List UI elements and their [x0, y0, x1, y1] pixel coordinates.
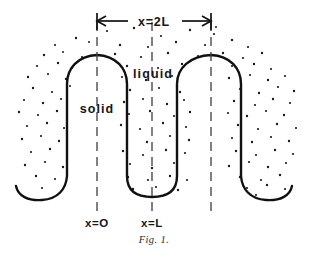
region-label-liquid: liquid	[133, 67, 173, 81]
axis-label-xL: x=L	[141, 217, 163, 229]
region-label-solid: solid	[80, 102, 115, 116]
axis-label-x0: x=O	[85, 217, 109, 229]
dimension-label-x2L: x=2L	[138, 15, 170, 29]
figure-container: x=2L liquid solid x=O x=L Fig. 1.	[0, 0, 309, 257]
figure-drawing: x=2L liquid solid x=O x=L Fig. 1.	[0, 0, 309, 257]
stipple-field	[18, 26, 297, 197]
figure-caption: Fig. 1.	[138, 234, 170, 245]
